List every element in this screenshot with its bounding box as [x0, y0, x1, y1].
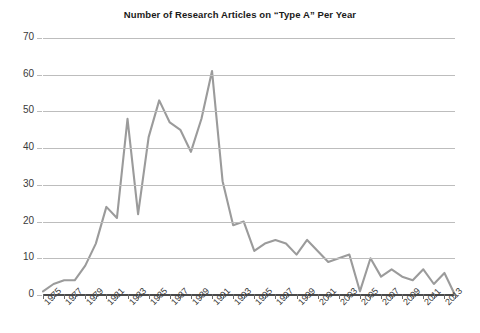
- gridline: [43, 75, 455, 76]
- x-tick-mark: [244, 294, 245, 299]
- x-tick-mark: [96, 294, 97, 299]
- y-tick-label: 40: [6, 141, 34, 152]
- y-tick-mark: [37, 185, 42, 186]
- x-tick-mark: [223, 294, 224, 299]
- gridline: [43, 185, 455, 186]
- page-title: Number of Research Articles on “Type A” …: [0, 9, 480, 20]
- x-tick-mark: [138, 294, 139, 299]
- y-tick-mark: [37, 258, 42, 259]
- y-tick-label: 0: [6, 288, 34, 299]
- y-tick-label: 70: [6, 31, 34, 42]
- y-tick-label: 10: [6, 251, 34, 262]
- x-tick-mark: [286, 294, 287, 299]
- y-tick-mark: [37, 222, 42, 223]
- y-tick-mark: [37, 111, 42, 112]
- x-tick-mark: [349, 294, 350, 299]
- y-tick-mark: [37, 38, 42, 39]
- x-tick-mark: [328, 294, 329, 299]
- y-tick-label: 60: [6, 68, 34, 79]
- x-tick-mark: [434, 294, 435, 299]
- y-tick-label: 30: [6, 178, 34, 189]
- x-tick-mark: [54, 294, 55, 299]
- gridline: [43, 222, 455, 223]
- gridline: [43, 111, 455, 112]
- gridline: [43, 38, 455, 39]
- x-tick-mark: [180, 294, 181, 299]
- x-tick-mark: [307, 294, 308, 299]
- chart-page: Number of Research Articles on “Type A” …: [0, 0, 480, 333]
- x-tick-mark: [265, 294, 266, 299]
- x-tick-mark: [370, 294, 371, 299]
- x-tick-mark: [159, 294, 160, 299]
- gridline: [43, 148, 455, 149]
- x-tick-mark: [413, 294, 414, 299]
- x-tick-mark: [455, 294, 456, 299]
- y-tick-mark: [37, 295, 42, 296]
- plot-area: [43, 38, 455, 295]
- y-tick-mark: [37, 148, 42, 149]
- y-tick-label: 50: [6, 104, 34, 115]
- gridline: [43, 258, 455, 259]
- line-series: [43, 38, 455, 295]
- y-tick-label: 20: [6, 215, 34, 226]
- y-tick-mark: [37, 75, 42, 76]
- x-tick-mark: [117, 294, 118, 299]
- x-tick-mark: [75, 294, 76, 299]
- x-tick-mark: [201, 294, 202, 299]
- series-polyline: [43, 71, 455, 295]
- x-tick-mark: [392, 294, 393, 299]
